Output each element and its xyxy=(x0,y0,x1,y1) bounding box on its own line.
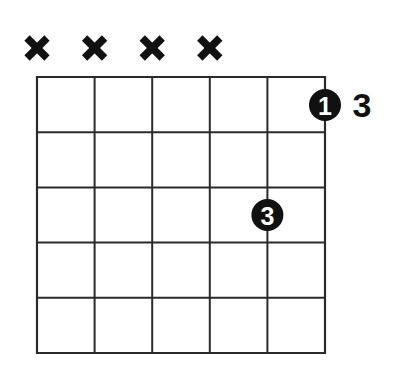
finger-dot-1: 1 xyxy=(309,89,341,121)
finger-dot-label: 3 xyxy=(260,202,274,230)
finger-dot-label: 1 xyxy=(318,92,332,120)
fret-position-label: 3 xyxy=(353,86,372,124)
chord-diagram: 1 3 3 xyxy=(0,0,400,376)
finger-dot-2: 3 xyxy=(251,199,283,231)
